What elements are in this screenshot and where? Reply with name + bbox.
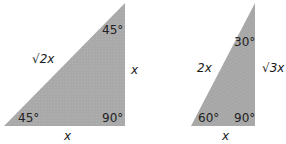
- side-label-base-left: x: [64, 130, 71, 142]
- side-label-base-right: x: [222, 130, 229, 142]
- angle-label-60-bottom-left: 60°: [198, 112, 219, 124]
- side-label-vertical-left: x: [131, 64, 138, 76]
- side-label-hypotenuse-left: √2x: [32, 53, 54, 65]
- angle-label-90-left-triangle: 90°: [102, 112, 123, 124]
- triangle-45-45-90: [4, 3, 125, 126]
- angle-label-45-bottom-left: 45°: [18, 112, 39, 124]
- side-label-hypotenuse-right: 2x: [197, 62, 212, 74]
- angle-label-90-right-triangle: 90°: [234, 112, 255, 124]
- side-label-vertical-right: √3x: [262, 62, 284, 74]
- angle-label-30-top: 30°: [234, 36, 255, 48]
- angle-label-45-top: 45°: [102, 24, 123, 36]
